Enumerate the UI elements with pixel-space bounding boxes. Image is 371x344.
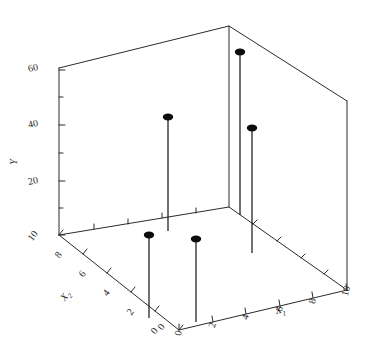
- y-axis-ticks: [59, 70, 65, 235]
- floor-back-edges: [59, 207, 347, 290]
- figure-canvas: 60 40 20 Y 10 8 6 4 2 0 X2 0 2 4 6 8 10 …: [0, 0, 371, 344]
- data-point: [144, 232, 154, 239]
- data-stems: [149, 53, 252, 322]
- x2-axis-ticks: [59, 230, 183, 330]
- x1-axis-ticks: [179, 284, 347, 330]
- data-point: [235, 49, 245, 56]
- floor-interior-ticks: [94, 208, 328, 274]
- floor-front-edges: [59, 235, 347, 330]
- data-point: [191, 236, 201, 243]
- data-point: [247, 125, 257, 132]
- plot-svg: [0, 0, 371, 344]
- y-axis-label: Y: [9, 159, 19, 165]
- data-point: [163, 114, 173, 121]
- box-top-edges: [59, 26, 347, 101]
